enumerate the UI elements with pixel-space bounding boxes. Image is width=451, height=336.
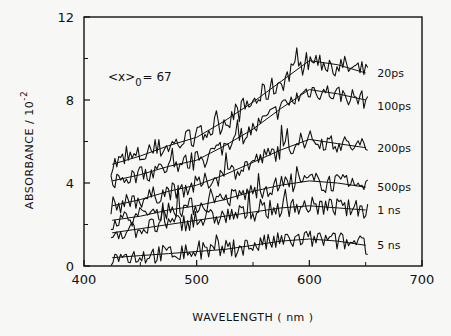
annotation-main: <x> (108, 70, 135, 84)
series-label: 20ps (377, 67, 404, 80)
x-tick-label: 600 (297, 272, 322, 287)
y-axis-label: ABSORBANCE / 10-2 (19, 91, 36, 209)
x-tick-label: 500 (184, 272, 209, 287)
y-axis-label-text: ABSORBANCE / 10 (23, 101, 36, 209)
x-axis-label: WAVELENGTH ( nm ) (192, 311, 313, 324)
y-tick-label: 8 (66, 93, 74, 108)
series-label: 5 ns (377, 239, 400, 252)
y-tick-label: 0 (66, 259, 74, 274)
y-tick-labels: 04812 (57, 10, 74, 274)
absorbance-chart: 400500600700 04812 20ps100ps200ps500ps1 … (0, 0, 451, 336)
series-label: 200ps (377, 142, 411, 155)
data-trace (111, 231, 368, 266)
series-labels: 20ps100ps200ps500ps1 ns5 ns (377, 67, 411, 252)
y-tick-label: 12 (57, 10, 74, 25)
x-tick-label: 700 (410, 272, 435, 287)
annotation-subscript: 0 (135, 77, 141, 88)
x-tick-label: 400 (72, 272, 97, 287)
series-label: 500ps (377, 181, 411, 194)
svg-text:ABSORBANCE / 10-2: ABSORBANCE / 10-2 (19, 91, 36, 209)
annotation-x0: <x>0= 67 (108, 70, 172, 88)
y-tick-label: 4 (66, 176, 74, 191)
y-axis-exponent: -2 (19, 91, 29, 101)
series-label: 100ps (377, 100, 411, 113)
series-label: 1 ns (377, 204, 400, 217)
annotation-value: = 67 (143, 70, 172, 84)
x-tick-labels: 400500600700 (72, 272, 435, 287)
